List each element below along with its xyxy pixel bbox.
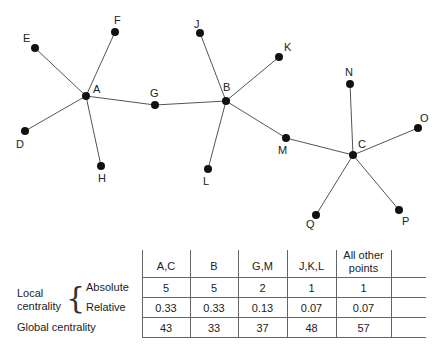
node-label-e: E [23, 32, 30, 44]
node-c [349, 151, 357, 159]
node-f [111, 28, 119, 36]
node-m [282, 134, 290, 142]
edge-a-f [86, 32, 115, 96]
row-label-absolute: Absolute [86, 281, 129, 294]
table-hline [142, 337, 426, 338]
node-b [222, 97, 230, 105]
node-label-n: N [345, 66, 353, 78]
table-cell: 57 [336, 322, 391, 334]
graph-edges [25, 32, 418, 215]
edge-a-h [86, 96, 101, 166]
node-j [196, 29, 204, 37]
node-n [346, 80, 354, 88]
column-header: A,C [142, 260, 190, 272]
group-label: Local [17, 287, 43, 300]
table-cell: 33 [190, 322, 238, 334]
edge-a-g [86, 96, 155, 105]
node-k [275, 53, 283, 61]
column-header: G,M [238, 260, 287, 272]
edge-m-c [286, 138, 353, 155]
table-cell: 0.13 [238, 302, 287, 314]
column-header: B [190, 260, 238, 272]
table-cell: 5 [142, 282, 190, 294]
node-label-c: C [358, 138, 366, 150]
table-cell: 5 [190, 282, 238, 294]
group-label: centrality [17, 300, 61, 313]
table-cell: 2 [238, 282, 287, 294]
graph-nodes: ABCDEFGHJKLMNOPQ [16, 14, 429, 230]
node-h [97, 162, 105, 170]
table-cell: 0.33 [190, 302, 238, 314]
node-o [414, 124, 422, 132]
table-cell: 0.07 [336, 302, 391, 314]
column-header: All other [336, 249, 391, 261]
edge-a-d [25, 96, 86, 131]
table-cell: 48 [287, 322, 336, 334]
brace-icon: { [66, 283, 85, 313]
node-p [395, 206, 403, 214]
node-label-d: D [16, 138, 24, 150]
node-label-g: G [150, 87, 159, 99]
edge-b-k [226, 57, 279, 101]
edge-c-p [353, 155, 399, 210]
table-hline [142, 297, 426, 298]
column-header: J,K,L [287, 260, 336, 272]
table-cell: 0.07 [287, 302, 336, 314]
network-graph: ABCDEFGHJKLMNOPQ [0, 0, 442, 240]
node-label-b: B [223, 81, 230, 93]
edge-b-m [226, 101, 286, 138]
node-label-j: J [194, 18, 200, 30]
edge-b-l [208, 101, 226, 169]
table-hline [142, 317, 426, 318]
node-a [82, 92, 90, 100]
node-label-q: Q [306, 218, 315, 230]
edge-g-b [155, 101, 226, 105]
edge-c-n [350, 84, 353, 155]
node-l [204, 165, 212, 173]
table-cell: 43 [142, 322, 190, 334]
column-header: points [336, 262, 391, 274]
table-cell: 1 [287, 282, 336, 294]
centrality-table: A,C B G,M J,K,L All other points Local c… [0, 240, 442, 354]
table-vline [391, 250, 392, 338]
edge-a-e [35, 48, 86, 96]
table-hline [142, 277, 426, 278]
row-label-relative: Relative [86, 301, 126, 314]
table-cell: 0.33 [142, 302, 190, 314]
node-e [31, 44, 39, 52]
table-cell: 1 [336, 282, 391, 294]
node-label-p: P [402, 215, 409, 227]
table-cell: 37 [238, 322, 287, 334]
node-label-f: F [114, 14, 121, 26]
node-label-h: H [98, 172, 106, 184]
node-g [151, 101, 159, 109]
node-label-m: M [278, 144, 287, 156]
row-label-global: Global centrality [17, 321, 96, 334]
node-label-k: K [284, 41, 292, 53]
node-d [21, 127, 29, 135]
node-label-o: O [420, 112, 429, 124]
node-label-a: A [93, 83, 101, 95]
node-label-l: L [203, 175, 209, 187]
edge-c-q [316, 155, 353, 215]
